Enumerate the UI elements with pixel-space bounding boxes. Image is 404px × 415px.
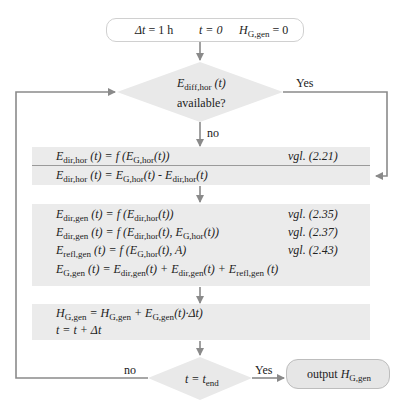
decision-diamond-1 [117,62,283,122]
decision1-available: available? [177,96,226,110]
eq-total-generator: EG,gen (t) = Edir,gen(t) + Edir,gen(t) +… [56,262,278,276]
eq-2-37: Edir,gen (t) = f (Edir,hor(t), EG,hor(t)… [56,225,219,239]
t-init: t = 0 [199,23,222,37]
process-block-accumulate: HG,gen = HG,gen + EG,gen(t)·Δt) t = t + … [32,304,370,340]
process-block-generator-plane: Edir,gen (t) = f (Edir,hor(t)) vgl. (2.3… [32,204,370,286]
decision1-no-label: no [207,126,219,141]
divider [32,165,370,166]
eq-2-35: Edir,gen (t) = f (Edir,hor(t)) [56,207,174,221]
start-box: Δt = 1 h t = 0 HG,gen = 0 [106,18,304,42]
decision1-condition: Ediff,hor (t) [177,76,226,90]
decision2-no-label: no [124,363,136,378]
decision2-yes-label: Yes [255,363,272,378]
ref-2-35: vgl. (2.35) [288,207,338,222]
ref-2-37: vgl. (2.37) [288,225,338,240]
eq-2-43: Erefl,gen (t) = f (EG,hor(t), A) [56,243,186,257]
eq-accumulate: HG,gen = HG,gen + EG,gen(t)·Δt) [56,306,203,320]
h-init: HG,gen = 0 [239,23,288,37]
decision1-yes-label: Yes [296,76,313,91]
process-block-direct-horizontal: Edir,hor (t) = f (EG,hor(t)) vgl. (2.21)… [32,147,370,185]
output-label: output HG,gen [307,367,371,381]
eq-time-step: t = t + Δt [56,323,101,337]
decision2-condition: t = tend [185,372,219,386]
dt-init: Δt = 1 h [135,23,173,37]
output-terminal: output HG,gen [286,359,390,389]
eq-2-21: Edir,hor (t) = f (EG,hor(t)) [56,149,169,163]
eq-diffuse-horizontal: Edir,hor (t) = EG,hor(t) - Edir,hor(t) [56,168,208,182]
ref-2-43: vgl. (2.43) [288,243,338,258]
ref-2-21: vgl. (2.21) [288,149,338,164]
